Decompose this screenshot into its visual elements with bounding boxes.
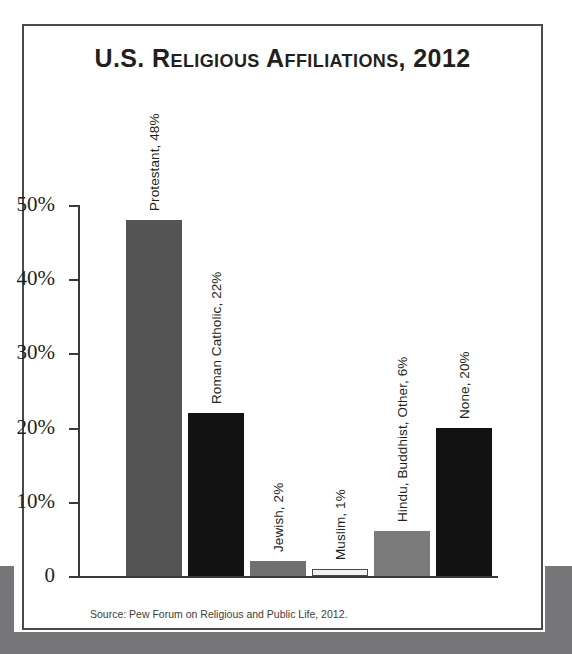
y-tick-label: 50% xyxy=(17,192,56,217)
chart-screenshot: U.S. Religious Affiliations, 2012 010%20… xyxy=(0,0,572,654)
bar-protestant: Protestant, 48% xyxy=(126,220,182,576)
y-tick-label: 10% xyxy=(17,489,56,514)
bar-rect xyxy=(188,413,244,576)
y-tick-40: 40% xyxy=(69,279,78,281)
y-tick-label: 20% xyxy=(17,415,56,440)
y-tick-label: 0 xyxy=(45,563,56,588)
y-axis-line xyxy=(78,205,80,577)
bar-data-label: Roman Catholic, 22% xyxy=(201,271,216,403)
bar-data-label: None, 20% xyxy=(449,351,464,419)
y-tick-label: 30% xyxy=(17,340,56,365)
y-tick-0: 0 xyxy=(69,576,78,578)
y-tick-20: 20% xyxy=(69,428,78,430)
bar-data-label: Hindu, Buddhist, Other, 6% xyxy=(387,357,402,522)
bar-rect xyxy=(126,220,182,576)
bar-rect xyxy=(250,561,306,576)
bar-rect xyxy=(312,569,368,576)
bar-rect xyxy=(436,428,492,576)
y-tick-10: 10% xyxy=(69,502,78,504)
x-axis-line xyxy=(78,576,498,578)
source-note: Source: Pew Forum on Religious and Publi… xyxy=(90,608,347,620)
plot-area: 010%20%30%40%50% Protestant, 48%Roman Ca… xyxy=(78,205,498,576)
y-tick-label: 40% xyxy=(17,266,56,291)
bar-data-label: Jewish, 2% xyxy=(263,483,278,552)
bar-jewish: Jewish, 2% xyxy=(250,561,306,576)
chart-title: U.S. Religious Affiliations, 2012 xyxy=(0,44,565,73)
y-tick-50: 50% xyxy=(69,205,78,207)
bar-none: None, 20% xyxy=(436,428,492,576)
bar-rect xyxy=(374,531,430,576)
bar-data-label: Protestant, 48% xyxy=(139,113,154,211)
bar-hindu-buddhist-other: Hindu, Buddhist, Other, 6% xyxy=(374,531,430,576)
y-tick-30: 30% xyxy=(69,353,78,355)
bar-data-label: Muslim, 1% xyxy=(325,489,340,560)
bar-roman-catholic: Roman Catholic, 22% xyxy=(188,413,244,576)
bar-muslim: Muslim, 1% xyxy=(312,569,368,576)
